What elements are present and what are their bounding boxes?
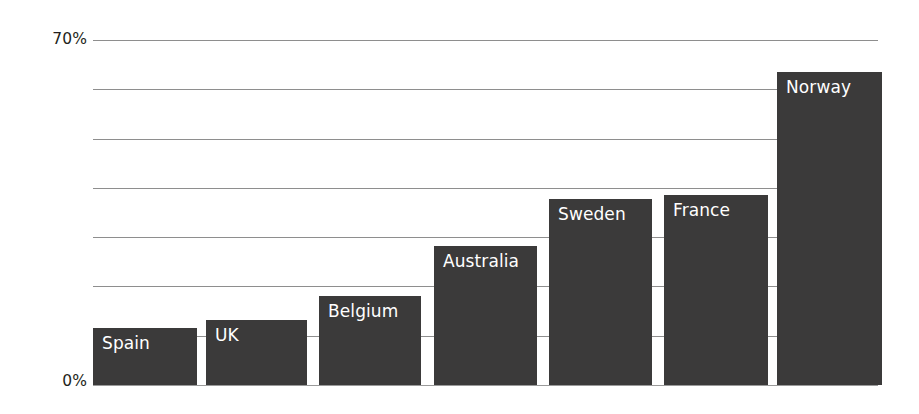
bar-label-belgium: Belgium — [328, 301, 398, 322]
bar-label-australia: Australia — [443, 251, 519, 272]
bar-sweden[interactable]: Sweden — [549, 199, 652, 385]
bar-norway[interactable]: Norway — [777, 72, 882, 385]
bar-france[interactable]: France — [664, 195, 768, 385]
bar-spain[interactable]: Spain — [93, 328, 197, 385]
bar-label-sweden: Sweden — [558, 204, 626, 225]
bar-chart: 70% 0% SpainUKBelgiumAustraliaSwedenFran… — [0, 0, 919, 414]
bar-label-france: France — [673, 200, 730, 221]
bar-australia[interactable]: Australia — [434, 246, 537, 385]
bar-label-spain: Spain — [102, 333, 150, 354]
bar-label-norway: Norway — [786, 77, 851, 98]
bar-uk[interactable]: UK — [206, 320, 307, 385]
bar-belgium[interactable]: Belgium — [319, 296, 421, 385]
bar-label-uk: UK — [215, 325, 239, 346]
bars-group: SpainUKBelgiumAustraliaSwedenFranceNorwa… — [0, 0, 919, 414]
